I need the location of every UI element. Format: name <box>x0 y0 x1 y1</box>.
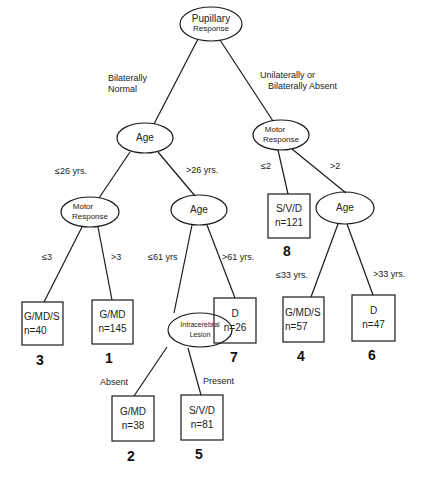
leaf-4: G/MD/S n=57 <box>283 297 326 342</box>
node-label-line2: Lesion <box>190 330 211 340</box>
leaf-outcome: S/V/D <box>189 404 215 418</box>
leaf-outcome: G/MD <box>120 405 146 419</box>
leaf-number-8: 8 <box>277 243 297 259</box>
leaf-1: G/MD n=145 <box>92 300 133 344</box>
edge-label-le-33: ≤33 yrs. <box>276 270 308 281</box>
node-motor-response-left: Motor Response <box>61 197 119 227</box>
leaf-count: n=81 <box>191 418 214 432</box>
leaf-2: G/MD n=38 <box>112 396 154 441</box>
node-motor-response-right: Motor Response <box>253 120 309 150</box>
leaf-count: n=38 <box>122 419 145 433</box>
leaf-outcome: D <box>370 304 377 318</box>
edge-label-gt-3: >3 <box>111 252 121 263</box>
node-age-1: Age <box>117 123 173 153</box>
leaf-number-3: 3 <box>30 352 50 368</box>
node-age-2: Age <box>171 195 227 225</box>
edge-label-le-61: ≤61 yrs <box>148 252 177 263</box>
node-age-2-label: Age <box>190 205 208 215</box>
edge-label-gt-61: >61 yrs. <box>222 252 254 263</box>
node-label-line1: Motor <box>265 125 285 135</box>
leaf-count: n=57 <box>285 320 308 334</box>
leaf-number-7: 7 <box>224 349 244 365</box>
leaf-number-5: 5 <box>189 446 209 462</box>
leaf-count: n=47 <box>362 318 385 332</box>
root-node-pupillary-response: Pupillary Response <box>180 7 242 41</box>
edge-label-gt-2: >2 <box>330 161 340 172</box>
edge-label-absent: Absent <box>100 377 128 388</box>
leaf-outcome: G/MD/S <box>285 306 321 320</box>
edge-label-line2: Normal <box>108 84 147 95</box>
edge-label-line1: Bilaterally <box>108 73 147 84</box>
edge-label-line2: Bilaterally Absent <box>260 81 337 92</box>
leaf-6: D n=47 <box>352 295 395 341</box>
leaf-count: n=145 <box>98 322 126 336</box>
edge-label-le-2: ≤2 <box>261 161 271 172</box>
edge-label-present: Present <box>203 376 234 387</box>
edge-label-gt-26: >26 yrs. <box>186 165 218 176</box>
node-age-3: Age <box>316 192 374 224</box>
edge-label-le-26: ≤26 yrs. <box>55 166 87 177</box>
leaf-5: S/V/D n=81 <box>181 395 223 440</box>
leaf-count: n=40 <box>24 324 47 338</box>
node-label-line2: Response <box>263 135 299 145</box>
leaf-count: n=121 <box>275 216 303 230</box>
edge-label-le-3: ≤3 <box>42 252 52 263</box>
root-label-line2: Response <box>193 24 229 34</box>
leaf-8: S/V/D n=121 <box>268 194 310 238</box>
edge-label-bilaterally-normal: Bilaterally Normal <box>108 73 147 95</box>
leaf-outcome: G/MD/S <box>24 310 60 324</box>
leaf-7: D n=26 <box>214 298 256 343</box>
leaf-outcome: G/MD <box>99 308 125 322</box>
edge-label-unilaterally-absent: Unilaterally or Bilaterally Absent <box>260 70 337 92</box>
node-label-line1: Motor <box>73 202 93 212</box>
node-age-3-label: Age <box>336 203 354 213</box>
leaf-number-1: 1 <box>99 350 119 366</box>
edge-label-gt-33: >33 yrs. <box>373 269 405 280</box>
leaf-count: n=26 <box>224 321 247 335</box>
leaf-outcome: S/V/D <box>276 202 302 216</box>
leaf-number-4: 4 <box>291 348 311 364</box>
root-label-line1: Pupillary <box>192 14 230 24</box>
leaf-number-6: 6 <box>362 347 382 363</box>
leaf-3: G/MD/S n=40 <box>22 302 65 345</box>
node-age-1-label: Age <box>136 133 154 143</box>
leaf-outcome: D <box>231 307 238 321</box>
leaf-number-2: 2 <box>121 448 141 464</box>
node-label-line2: Response <box>72 212 108 222</box>
edge-label-line1: Unilaterally or <box>260 70 337 81</box>
